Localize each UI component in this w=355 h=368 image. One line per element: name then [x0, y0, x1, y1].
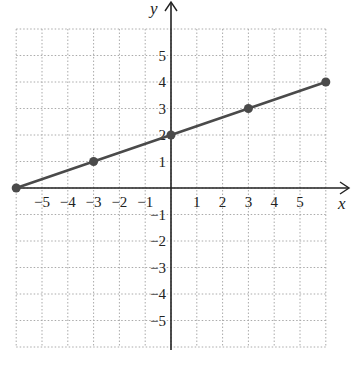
- y-tick-label: 5: [159, 48, 167, 64]
- y-tick-label: −1: [150, 207, 166, 223]
- x-axis-label: x: [337, 194, 346, 213]
- x-tick-label: −5: [34, 194, 50, 210]
- x-tick-label: −2: [111, 194, 127, 210]
- data-point: [89, 157, 98, 166]
- x-tick-label: 3: [245, 194, 253, 210]
- x-tick-label: 5: [296, 194, 304, 210]
- x-tick-label: 1: [193, 194, 201, 210]
- coordinate-plane: xy−5−4−3−2−11234554321−1−2−3−4−5: [0, 0, 355, 368]
- y-tick-label: −3: [150, 260, 166, 276]
- y-tick-label: −4: [150, 286, 166, 302]
- data-point: [321, 78, 330, 87]
- x-tick-label: 2: [219, 194, 227, 210]
- x-tick-label: −4: [60, 194, 76, 210]
- y-axis-label: y: [148, 0, 158, 18]
- y-tick-label: 2: [159, 127, 167, 143]
- y-tick-label: 1: [159, 154, 167, 170]
- x-tick-label: 4: [270, 194, 278, 210]
- x-tick-label: −3: [86, 194, 102, 210]
- y-tick-label: 3: [159, 101, 167, 117]
- y-tick-label: 4: [159, 74, 167, 90]
- data-point: [244, 104, 253, 113]
- data-point: [167, 131, 176, 140]
- y-tick-label: −2: [150, 233, 166, 249]
- y-tick-label: −5: [150, 313, 166, 329]
- data-point: [12, 184, 21, 193]
